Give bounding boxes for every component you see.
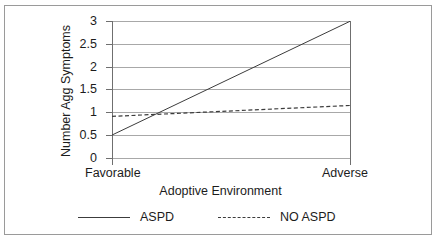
y-tick-label-2p5: 2.5 bbox=[80, 38, 97, 50]
y-tick-label-0p5: 0.5 bbox=[80, 129, 97, 141]
y-tick-mark-2p5 bbox=[106, 44, 112, 45]
chart-figure: 3 2.5 2 1.5 1 0.5 0 Favorable Adverse Ad… bbox=[0, 0, 441, 242]
y-tick-label-0: 0 bbox=[90, 152, 97, 164]
legend-entry-aspd: ASPD bbox=[78, 207, 174, 227]
x-tick-mark-favorable bbox=[112, 159, 113, 165]
legend-swatch-dashed-icon bbox=[218, 212, 270, 222]
y-tick-label-1p5: 1.5 bbox=[80, 83, 97, 95]
x-tick-label-favorable: Favorable bbox=[85, 166, 141, 180]
y-tick-mark-0p5 bbox=[106, 135, 112, 136]
chart-legend: ASPD NO ASPD bbox=[60, 207, 390, 229]
gridline-1 bbox=[112, 112, 350, 113]
legend-label-no-aspd: NO ASPD bbox=[280, 210, 336, 224]
gridline-0 bbox=[112, 158, 350, 159]
legend-entry-no-aspd: NO ASPD bbox=[218, 207, 336, 227]
y-axis-line bbox=[112, 21, 113, 159]
y-tick-mark-3 bbox=[106, 21, 112, 22]
x-axis-title: Adoptive Environment bbox=[0, 184, 441, 198]
gridline-1p5 bbox=[112, 89, 350, 90]
y-tick-label-3: 3 bbox=[90, 15, 97, 27]
y-tick-mark-1 bbox=[106, 112, 112, 113]
right-axis-line bbox=[350, 21, 351, 159]
x-tick-label-adverse: Adverse bbox=[322, 166, 368, 180]
x-tick-mark-adverse bbox=[350, 159, 351, 165]
gridline-3 bbox=[112, 21, 350, 22]
gridline-0p5 bbox=[112, 135, 350, 136]
legend-swatch-solid-icon bbox=[78, 212, 130, 222]
y-axis-title: Number Agg Symptoms bbox=[59, 11, 73, 171]
y-tick-label-1: 1 bbox=[90, 106, 97, 118]
legend-label-aspd: ASPD bbox=[140, 210, 174, 224]
y-tick-mark-2 bbox=[106, 67, 112, 68]
y-tick-mark-1p5 bbox=[106, 89, 112, 90]
gridline-2 bbox=[112, 67, 350, 68]
gridline-2p5 bbox=[112, 44, 350, 45]
y-tick-label-2: 2 bbox=[90, 61, 97, 73]
plot-area bbox=[112, 21, 350, 158]
